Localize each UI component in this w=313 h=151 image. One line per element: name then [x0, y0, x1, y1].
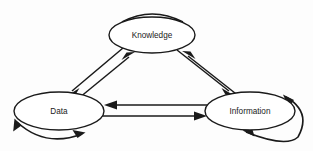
diagram-canvas: Knowledge Data Information	[0, 0, 313, 151]
edge-knowledge-to-data	[66, 48, 123, 97]
information-label: Information	[230, 107, 271, 116]
edge-data-to-knowledge	[79, 52, 135, 98]
node-knowledge[interactable]: Knowledge	[109, 17, 195, 53]
data-label: Data	[50, 107, 68, 116]
node-information[interactable]: Information	[205, 92, 295, 130]
arrowhead-to-knowledge-left	[122, 52, 136, 60]
edge-information-to-knowledge	[182, 51, 240, 97]
arrowhead-to-data-horizontal	[104, 101, 117, 110]
knowledge-label: Knowledge	[132, 31, 173, 40]
diagram-svg: Knowledge Data Information	[0, 0, 313, 151]
edge-knowledge-to-information	[177, 50, 235, 96]
edge-information-to-data	[104, 101, 218, 110]
edge-data-to-information	[96, 112, 207, 121]
node-data[interactable]: Data	[14, 92, 104, 130]
